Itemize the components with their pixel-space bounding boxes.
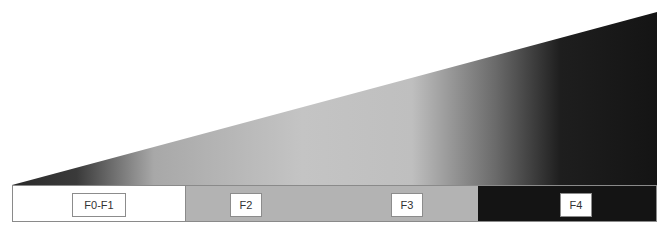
stage-label-f4: F4: [560, 193, 592, 217]
stage-segment-f0-f1: F0-F1: [13, 186, 186, 221]
fibrosis-stage-bar: F0-F1 F2 F3 F4: [12, 185, 657, 222]
stage-label-f2: F2: [230, 193, 262, 217]
stage-segment-f2-f3: F2 F3: [186, 186, 478, 221]
stage-label-f0-f1: F0-F1: [72, 193, 126, 217]
stage-label-f3: F3: [391, 193, 423, 217]
stage-segment-f4: F4: [478, 186, 656, 221]
